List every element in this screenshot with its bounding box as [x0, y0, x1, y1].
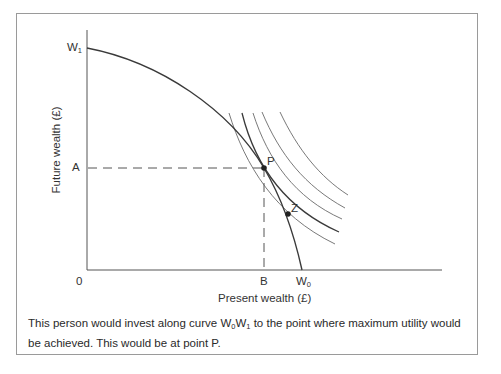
indifference-curve-1	[229, 113, 335, 244]
x-axis-label: Present wealth (£)	[218, 293, 311, 305]
indifference-curves	[229, 112, 348, 244]
label-W1: W1	[67, 42, 82, 55]
label-origin: 0	[76, 276, 82, 288]
figure-caption: This person would invest along curve W0W…	[28, 315, 468, 351]
label-A: A	[72, 162, 80, 174]
point-Z-marker	[285, 211, 291, 217]
label-B: B	[260, 276, 268, 288]
label-P: P	[267, 156, 275, 168]
y-axis-label: Future wealth (£)	[50, 107, 62, 194]
label-W0: W0	[296, 276, 311, 289]
indifference-curve-5	[280, 112, 348, 195]
label-Z: Z	[291, 203, 298, 215]
point-P-marker	[261, 165, 267, 171]
